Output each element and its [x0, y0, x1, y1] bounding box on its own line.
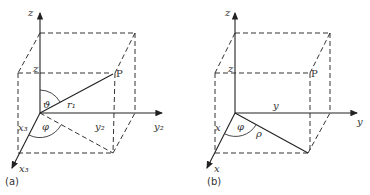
x-proj-label-b: x [215, 122, 221, 133]
panel-b: z z P y y φ ρ x x (b) [207, 7, 363, 187]
z-axis-label-b: z [224, 7, 231, 18]
point-p-label-a: P [116, 68, 123, 79]
x-axis-label-a: x₃ [19, 163, 29, 174]
panel-b-caption: (b) [207, 176, 221, 187]
point-p-label-b: P [311, 68, 318, 79]
x-axis-label-b: x [214, 163, 220, 174]
z-proj-label-b: z [227, 63, 234, 74]
phi-label-a: φ [42, 121, 49, 132]
x-proj-label-a: x₃ [18, 122, 28, 133]
radius-vector-a [40, 74, 113, 113]
theta-label: ϑ [43, 99, 50, 110]
z-proj-label-a: z [32, 63, 39, 74]
phi-label-b: φ [237, 121, 244, 132]
radius-label: r₁ [67, 99, 76, 110]
y-axis-label-b: y [356, 116, 363, 127]
coordinate-diagrams: z z P ϑ r₁ φ y₂ y₂ x₃ x₃ (a) z z P y [0, 0, 370, 195]
panel-b-box [215, 33, 330, 153]
panel-a: z z P ϑ r₁ φ y₂ y₂ x₃ x₃ (a) [5, 7, 164, 187]
x-axis-b [207, 113, 235, 168]
rho-vector [235, 113, 308, 153]
y-axis-label-a: y₂ [153, 121, 164, 132]
y-proj-label-a: y₂ [94, 121, 105, 132]
panel-a-caption: (a) [5, 176, 19, 187]
z-axis-label-a: z [27, 7, 34, 18]
rho-label: ρ [255, 128, 262, 139]
y-proj-label-b: y [272, 100, 279, 111]
